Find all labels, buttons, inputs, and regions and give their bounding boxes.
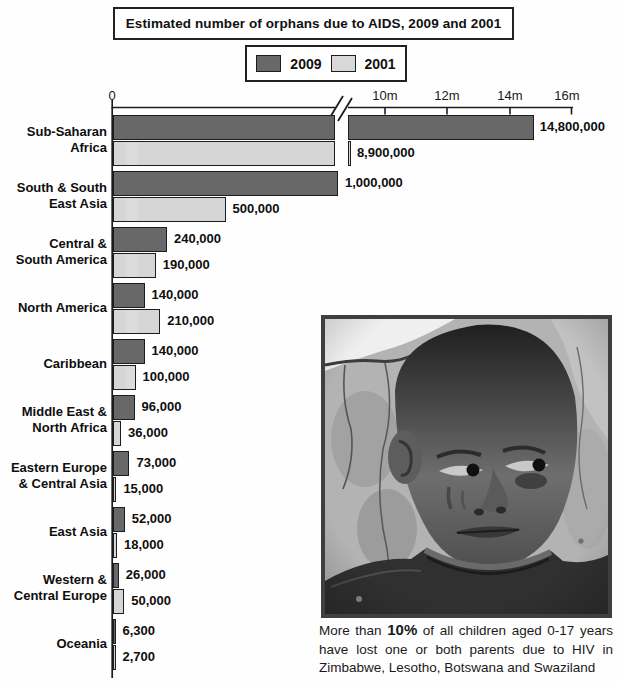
bar-2001 bbox=[113, 365, 136, 390]
bar-2009 bbox=[113, 451, 129, 476]
value-label-2001: 36,000 bbox=[128, 425, 168, 441]
bar-2001 bbox=[113, 645, 116, 670]
value-label-2009: 140,000 bbox=[152, 343, 199, 359]
legend-swatch-2001 bbox=[331, 55, 356, 72]
value-label-2001: 190,000 bbox=[163, 257, 210, 273]
bar-2009 bbox=[113, 619, 116, 644]
bar-2001 bbox=[113, 477, 116, 502]
value-label-2009: 73,000 bbox=[136, 455, 176, 471]
region-label-line: North America bbox=[0, 300, 107, 316]
value-label-2001: 15,000 bbox=[123, 481, 163, 497]
region-label-line: East Asia bbox=[0, 196, 107, 212]
value-label-2001: 50,000 bbox=[131, 593, 171, 609]
value-label-2001: 210,000 bbox=[167, 313, 214, 329]
region-label: Caribbean bbox=[0, 356, 107, 372]
photo-child-portrait bbox=[321, 315, 612, 618]
region-label-line: & Central Asia bbox=[0, 476, 107, 492]
bar-2009 bbox=[113, 563, 119, 588]
bar-2001 bbox=[113, 421, 121, 446]
photo-illustration bbox=[325, 319, 608, 614]
value-label-2009: 26,000 bbox=[126, 567, 166, 583]
value-label-2009: 6,300 bbox=[123, 623, 156, 639]
region-label: North America bbox=[0, 300, 107, 316]
region-label: Western &Central Europe bbox=[0, 572, 107, 604]
region-label-line: Western & bbox=[0, 572, 107, 588]
chart-title-box: Estimated number of orphans due to AIDS,… bbox=[113, 7, 514, 40]
value-label-2001: 2,700 bbox=[123, 649, 156, 665]
axis-tick-0: 0 bbox=[92, 88, 132, 103]
value-label-2001: 18,000 bbox=[124, 537, 164, 553]
legend: 2009 2001 bbox=[245, 45, 407, 82]
chart-title: Estimated number of orphans due to AIDS,… bbox=[126, 16, 502, 31]
bar-2001 bbox=[113, 197, 226, 222]
value-label-2009: 240,000 bbox=[174, 231, 221, 247]
axis-tick-10m: 10m bbox=[365, 88, 405, 103]
region-label-line: Central Europe bbox=[0, 588, 107, 604]
region-label-line: Sub-Saharan bbox=[0, 124, 107, 140]
axis-tick-12m: 12m bbox=[427, 88, 467, 103]
bar-2009 bbox=[113, 227, 167, 252]
region-label-line: Africa bbox=[0, 140, 107, 156]
bar-2001 bbox=[113, 533, 117, 558]
region-label: Oceania bbox=[0, 636, 107, 652]
caption-prefix: More than bbox=[319, 623, 387, 638]
region-label-line: North Africa bbox=[0, 420, 107, 436]
region-label-line: Central & bbox=[0, 236, 107, 252]
region-label-line: Middle East & bbox=[0, 404, 107, 420]
value-label-2009: 96,000 bbox=[142, 399, 182, 415]
value-label-2001: 500,000 bbox=[233, 201, 280, 217]
value-label-2009: 14,800,000 bbox=[540, 119, 605, 135]
bar-2009 bbox=[113, 171, 338, 196]
region-label: Sub-SaharanAfrica bbox=[0, 124, 107, 156]
caption-percentage: 10% bbox=[387, 621, 417, 638]
bar-2001 bbox=[113, 589, 124, 614]
region-label: Eastern Europe& Central Asia bbox=[0, 460, 107, 492]
region-label-line: East Asia bbox=[0, 524, 107, 540]
region-label: East Asia bbox=[0, 524, 107, 540]
bar-2001 bbox=[113, 309, 160, 334]
region-label: Middle East &North Africa bbox=[0, 404, 107, 436]
bar-2001 bbox=[113, 253, 156, 278]
legend-label-2009: 2009 bbox=[290, 56, 321, 72]
aids-orphans-chart-page: Estimated number of orphans due to AIDS,… bbox=[0, 0, 619, 682]
region-label: South & SouthEast Asia bbox=[0, 180, 107, 212]
bar-2009 bbox=[113, 507, 125, 532]
bar-2009 bbox=[113, 115, 335, 140]
region-label-line: South & South bbox=[0, 180, 107, 196]
value-label-2009: 1,000,000 bbox=[345, 175, 403, 191]
photo-caption: More than 10% of all children aged 0-17 … bbox=[319, 621, 613, 678]
legend-swatch-2009 bbox=[256, 55, 281, 72]
region-label-line: Caribbean bbox=[0, 356, 107, 372]
bar-2009 bbox=[113, 283, 145, 308]
bar-2009 bbox=[348, 115, 534, 140]
region-label-line: Oceania bbox=[0, 636, 107, 652]
bar-2009 bbox=[113, 339, 145, 364]
value-label-2001: 8,900,000 bbox=[357, 145, 415, 161]
bar-2001 bbox=[113, 141, 335, 166]
value-label-2009: 52,000 bbox=[132, 511, 172, 527]
region-label-line: Eastern Europe bbox=[0, 460, 107, 476]
region-label: Central &South America bbox=[0, 236, 107, 268]
region-label-line: South America bbox=[0, 252, 107, 268]
value-label-2001: 100,000 bbox=[143, 369, 190, 385]
legend-label-2001: 2001 bbox=[365, 56, 396, 72]
bar-2009 bbox=[113, 395, 135, 420]
bar-2001 bbox=[348, 141, 351, 166]
axis-tick-14m: 14m bbox=[490, 88, 530, 103]
value-label-2009: 140,000 bbox=[152, 287, 199, 303]
axis-tick-16m: 16m bbox=[547, 88, 587, 103]
